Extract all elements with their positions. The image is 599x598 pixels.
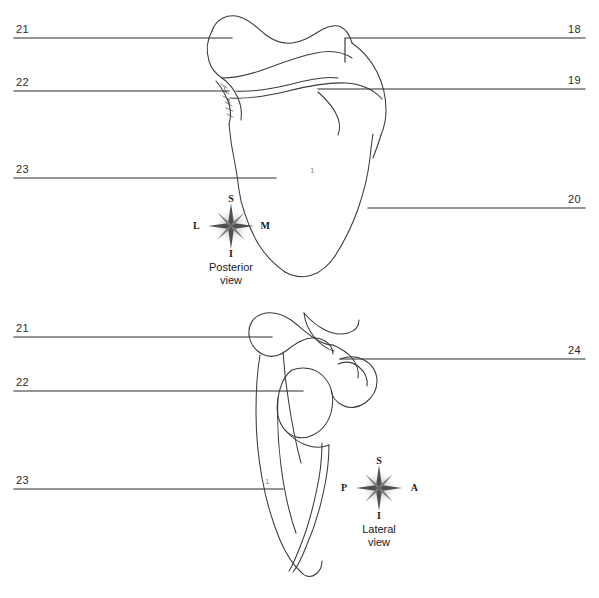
lateral-hook-inner <box>338 362 367 386</box>
suprascapular-curve <box>333 345 358 378</box>
label-22-top[interactable]: 22 <box>16 77 29 88</box>
lateral-border-shaft-inner <box>289 443 322 571</box>
posterior-border-shaft <box>256 355 301 572</box>
body-number-posterior: 1 <box>310 166 314 175</box>
compass-north-label-posterior: S <box>228 194 234 204</box>
inferior-angle-lateral <box>301 561 322 576</box>
label-24-bottom[interactable]: 24 <box>568 345 581 356</box>
view-caption-posterior-line2: view <box>188 274 274 287</box>
compass-posterior: S I L M Posterior view <box>188 198 274 287</box>
compass-west-label-lateral: P <box>341 483 347 493</box>
acromion-lobe <box>249 313 333 345</box>
acromion-spine-link <box>281 338 333 354</box>
stipple-band-inner <box>216 81 231 124</box>
leader-lines-lateral <box>14 337 585 489</box>
body-number-lateral: 1 <box>265 477 269 486</box>
clipped-footer-text: ...... <box>0 591 599 598</box>
leader-line-18-top <box>345 38 585 62</box>
compass-south-label-posterior: I <box>229 249 233 259</box>
inferior-angle <box>285 256 335 277</box>
label-22-bottom[interactable]: 22 <box>16 377 29 388</box>
compass-east-label-posterior: M <box>261 221 270 231</box>
label-21-bottom[interactable]: 21 <box>16 323 29 334</box>
stipple-ticks <box>221 84 233 117</box>
compass-north-label-lateral: S <box>376 456 382 466</box>
acromion-superior-edge <box>212 16 352 43</box>
label-19-top[interactable]: 19 <box>568 75 581 86</box>
view-caption-posterior-line1: Posterior <box>188 261 274 274</box>
compass-star-lateral: S I P A <box>351 460 407 516</box>
view-caption-lateral: Lateral view <box>336 523 422 549</box>
lateral-border <box>335 134 373 256</box>
stipple-band-outer <box>222 78 241 120</box>
compass-west-label-posterior: L <box>193 221 200 231</box>
label-23-bottom[interactable]: 23 <box>16 475 29 486</box>
figure-artwork <box>0 0 599 598</box>
compass-south-label-lateral: I <box>377 511 381 521</box>
view-caption-lateral-line1: Lateral <box>336 523 422 536</box>
leader-lines-posterior <box>14 38 585 208</box>
compass-star-glyph <box>203 198 259 254</box>
label-18-top[interactable]: 18 <box>568 24 581 35</box>
label-20-top[interactable]: 20 <box>568 194 581 205</box>
lateral-angle-notch <box>373 135 381 158</box>
compass-star-posterior: S I L M <box>203 198 259 254</box>
compass-east-label-lateral: A <box>411 483 418 493</box>
label-23-top[interactable]: 23 <box>16 164 29 175</box>
scapular-spine-upper <box>222 52 352 78</box>
coracoid-process <box>304 313 359 334</box>
blade-faint-edge <box>278 398 296 533</box>
acromion-lobe-lower <box>249 335 281 356</box>
label-21-top[interactable]: 21 <box>16 24 29 35</box>
lateral-border-shaft <box>293 445 329 572</box>
figure-root: 21 22 23 18 19 20 1 <box>0 0 599 598</box>
view-caption-posterior: Posterior view <box>188 261 274 287</box>
compass-star-glyph-lateral <box>351 460 407 516</box>
view-caption-lateral-line2: view <box>336 536 422 549</box>
compass-lateral: S I P A Lateral view <box>336 460 422 549</box>
spine-notch-tail <box>318 92 340 135</box>
